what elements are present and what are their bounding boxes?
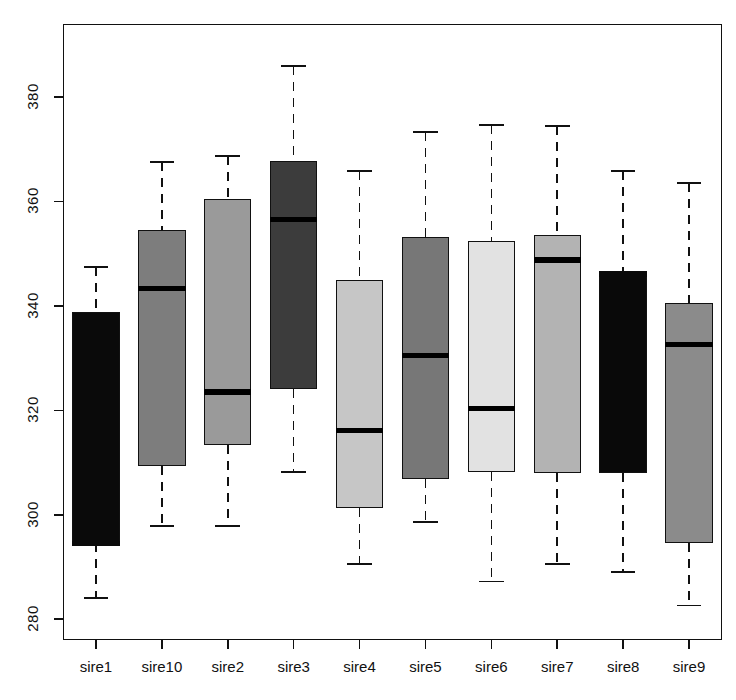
lower-whisker-cap xyxy=(215,525,240,527)
whisker-dash xyxy=(95,575,97,584)
y-tick-mark xyxy=(54,96,63,98)
whisker-dash xyxy=(622,219,624,228)
whisker-dash xyxy=(622,473,624,482)
y-tick-mark xyxy=(54,514,63,516)
whisker-dash xyxy=(425,495,427,504)
y-tick-label: 320 xyxy=(24,388,41,432)
upper-whisker-cap xyxy=(84,266,109,268)
upper-whisker-cap xyxy=(545,125,570,127)
whisker-dash xyxy=(556,489,558,498)
upper-whisker-cap xyxy=(347,170,372,172)
whisker-dash xyxy=(622,553,624,562)
whisker-dash xyxy=(556,537,558,546)
whisker-dash xyxy=(227,461,229,470)
whisker-dash xyxy=(622,537,624,546)
x-tick-mark xyxy=(359,640,361,649)
whisker-dash xyxy=(688,215,690,224)
x-tick-label-sire8: sire8 xyxy=(590,658,656,675)
whisker-dash xyxy=(491,504,493,513)
whisker-dash xyxy=(688,231,690,240)
box-sire9 xyxy=(665,303,712,543)
whisker-dash xyxy=(293,405,295,414)
whisker-dash xyxy=(622,235,624,244)
whisker-dash xyxy=(227,445,229,454)
y-tick-label: 340 xyxy=(24,283,41,327)
whisker-dash xyxy=(293,389,295,398)
x-tick-mark xyxy=(491,640,493,649)
whisker-dash xyxy=(293,437,295,446)
whisker-dash xyxy=(359,267,361,276)
whisker-dash xyxy=(95,267,97,276)
y-tick-mark xyxy=(54,201,63,203)
whisker-dash xyxy=(556,158,558,167)
whisker-dash xyxy=(359,251,361,260)
lower-whisker-cap xyxy=(479,581,504,583)
median-line-sire9 xyxy=(665,342,712,347)
whisker-dash xyxy=(227,188,229,197)
whisker-dash xyxy=(491,125,493,134)
whisker-dash xyxy=(293,66,295,75)
whisker-dash xyxy=(293,146,295,155)
median-line-sire4 xyxy=(336,428,383,433)
whisker-dash xyxy=(556,521,558,530)
whisker-dash xyxy=(161,210,163,219)
x-tick-label-sire2: sire2 xyxy=(195,658,261,675)
whisker-dash xyxy=(293,82,295,91)
whisker-dash xyxy=(622,203,624,212)
whisker-dash xyxy=(688,591,690,600)
whisker-dash xyxy=(359,235,361,244)
whisker-dash xyxy=(293,453,295,462)
whisker-dash xyxy=(688,295,690,303)
upper-whisker-cap xyxy=(479,124,504,126)
whisker-dash xyxy=(95,283,97,292)
whisker-dash xyxy=(425,148,427,157)
box-sire2 xyxy=(204,199,251,445)
whisker-dash xyxy=(491,568,493,577)
whisker-dash xyxy=(95,299,97,308)
whisker-dash xyxy=(161,162,163,171)
box-sire10 xyxy=(138,230,185,466)
median-line-sire7 xyxy=(534,257,581,262)
whisker-dash xyxy=(688,247,690,256)
whisker-dash xyxy=(227,493,229,502)
whisker-dash xyxy=(425,132,427,141)
whisker-dash xyxy=(688,199,690,208)
box-sire8 xyxy=(599,274,646,473)
x-tick-label-sire9: sire9 xyxy=(656,658,722,675)
whisker-dash xyxy=(622,171,624,180)
whisker-dash xyxy=(622,521,624,530)
whisker-dash xyxy=(688,183,690,192)
whisker-dash xyxy=(425,196,427,205)
x-tick-label-sire10: sire10 xyxy=(129,658,195,675)
whisker-dash xyxy=(161,498,163,507)
whisker-dash xyxy=(556,553,558,562)
whisker-dash xyxy=(95,559,97,568)
y-tick-mark xyxy=(54,305,63,307)
whisker-dash xyxy=(688,279,690,288)
whisker-dash xyxy=(556,190,558,199)
whisker-dash xyxy=(622,251,624,260)
whisker-dash xyxy=(359,187,361,196)
whisker-dash xyxy=(161,466,163,475)
upper-whisker-cap xyxy=(413,131,438,133)
x-tick-mark xyxy=(293,640,295,649)
whisker-dash xyxy=(359,171,361,180)
whisker-dash xyxy=(556,222,558,231)
y-tick-label: 280 xyxy=(24,597,41,641)
whisker-dash xyxy=(227,156,229,165)
median-line-sire8 xyxy=(599,271,646,276)
whisker-dash xyxy=(359,219,361,228)
whisker-dash xyxy=(688,263,690,272)
whisker-dash xyxy=(359,508,361,517)
x-tick-mark xyxy=(425,640,427,649)
x-tick-label-sire3: sire3 xyxy=(261,658,327,675)
lower-whisker-cap xyxy=(677,605,702,607)
y-tick-label: 380 xyxy=(24,75,41,119)
whisker-dash xyxy=(227,477,229,486)
lower-whisker-cap xyxy=(611,571,636,573)
whisker-dash xyxy=(293,130,295,139)
lower-whisker-cap xyxy=(150,525,175,527)
x-tick-label-sire7: sire7 xyxy=(524,658,590,675)
whisker-dash xyxy=(425,511,427,520)
x-tick-mark xyxy=(622,640,624,649)
